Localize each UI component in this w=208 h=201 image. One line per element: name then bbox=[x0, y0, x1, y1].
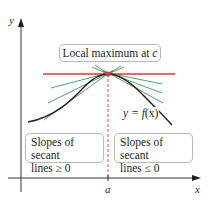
local-maximum-text: Local maximum at bbox=[63, 47, 153, 59]
left-slopes-line2: lines ≥ 0 bbox=[31, 162, 103, 175]
x-tick-label-a: a bbox=[105, 183, 111, 195]
right-slopes-line1: Slopes of secant bbox=[120, 136, 192, 162]
curve-label-prefix: y = bbox=[123, 107, 142, 119]
curve-label: y = f(x) bbox=[122, 107, 159, 119]
curve-label-arg: (x) bbox=[145, 107, 158, 119]
x-axis-label: x bbox=[195, 183, 200, 195]
y-axis-label: y bbox=[9, 14, 14, 26]
right-slopes-callout: Slopes of secant lines ≤ 0 bbox=[114, 133, 193, 163]
x-axis-arrow-icon bbox=[192, 175, 201, 181]
y-axis-arrow-icon bbox=[18, 18, 24, 27]
local-maximum-var: c bbox=[152, 47, 157, 59]
right-slopes-line2: lines ≤ 0 bbox=[120, 162, 192, 175]
secant-lines-right bbox=[103, 66, 163, 103]
local-maximum-callout: Local maximum at c bbox=[59, 44, 161, 62]
left-slopes-line1: Slopes of secant bbox=[31, 136, 103, 162]
local-max-point bbox=[105, 71, 110, 76]
left-slopes-callout: Slopes of secant lines ≥ 0 bbox=[25, 133, 104, 163]
